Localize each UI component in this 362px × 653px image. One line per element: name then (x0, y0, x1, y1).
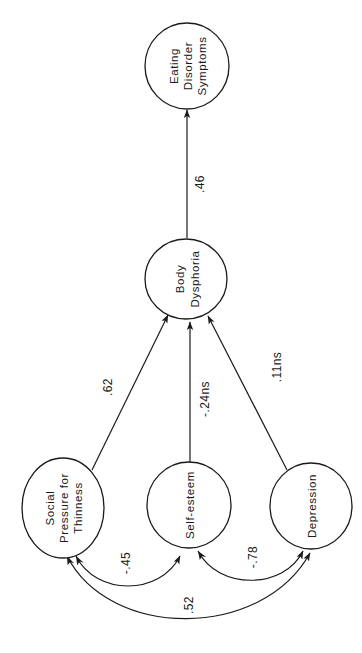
node-label-line: Eating (168, 48, 180, 84)
path-label-62: .62 (101, 378, 115, 396)
node-label-line: Self-esteem (184, 471, 196, 539)
path-depression-to-body: .11ns (208, 316, 287, 470)
correlation-arrowheads (67, 551, 206, 565)
node-label-line: Pressure for (58, 473, 70, 543)
node-label-line: Dysphoria (189, 250, 201, 307)
correlation-label-52: .52 (182, 596, 196, 614)
node-label-line: Thinness (72, 482, 84, 533)
node-label-line: Disorder (182, 42, 194, 90)
node-body-dysphoria: Body Dysphoria (145, 239, 227, 319)
node-label-line: Depression (306, 474, 318, 538)
path-body-to-eating: .46 (187, 110, 207, 238)
arrowhead-icon (76, 556, 84, 565)
correlation-selfesteem-depression: -.78 (198, 546, 303, 580)
correlation-label-45: -.45 (119, 552, 133, 574)
path-label-24ns: -.24ns (198, 381, 212, 417)
path-social-to-body: .62 (92, 315, 168, 470)
arrow-line (208, 316, 287, 470)
path-diagram: .46 .62 -.24ns .11ns -.45 -.78 .52 Eatin… (0, 0, 362, 653)
correlation-social-selfesteem: -.45 (76, 552, 180, 586)
correlation-social-depression: .52 (67, 553, 310, 619)
node-social-pressure-for-thinness: Social Pressure for Thinness (22, 458, 104, 558)
path-label-46: .46 (193, 175, 207, 193)
node-eating-disorder-symptoms: Eating Disorder Symptoms (145, 23, 229, 109)
node-label-line: Body (174, 265, 186, 294)
node-label-line: Social (44, 491, 56, 526)
node-depression: Depression (270, 463, 352, 549)
path-label-11ns: .11ns (270, 352, 284, 382)
node-label-line: Symptoms (196, 36, 208, 95)
node-circle (145, 239, 227, 319)
node-self-esteem: Self-esteem (147, 462, 231, 548)
path-selfesteem-to-body: -.24ns (190, 322, 212, 463)
correlation-label-78: -.78 (246, 546, 260, 568)
